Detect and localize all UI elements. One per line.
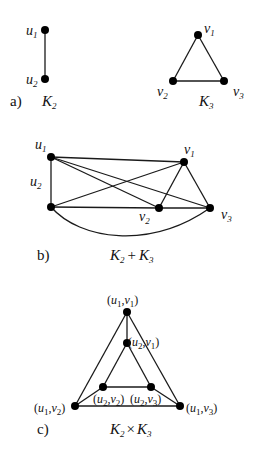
edge-u2-v2	[51, 207, 159, 208]
label-u2v1: (u2,v1)	[128, 335, 159, 351]
label-v3: v3	[221, 207, 232, 224]
panel-c: (u1,v1) (u2,v1) (u2,v2) (u2,v3) (u1,v2) …	[34, 293, 217, 439]
node-u2	[47, 203, 55, 211]
caption-k2: K2	[41, 93, 57, 111]
panel-a: u1 u2 v1 v2 v3 a) K2 K3	[10, 21, 244, 111]
label-v3: v3	[233, 84, 244, 101]
label-u2: u2	[26, 72, 38, 89]
node-u1	[41, 26, 49, 34]
edge-v1-v2	[173, 35, 198, 81]
label-u1v3: (u1,v3)	[186, 401, 217, 417]
node-u2	[41, 75, 49, 83]
k3-graph: v1 v2 v3	[157, 21, 244, 101]
caption-a-letter: a)	[10, 93, 22, 110]
label-u1: u1	[35, 137, 47, 154]
edge-u1-v2	[51, 157, 159, 208]
node-v2	[169, 77, 177, 85]
caption-k3: K3	[198, 93, 214, 111]
node-u1v2	[71, 402, 79, 410]
label-v2: v2	[139, 209, 150, 226]
panel-b: u1 u2 v1 v2 v3 b) K2+K3	[30, 137, 232, 265]
label-u2: u2	[30, 174, 42, 191]
edge-v1-v3	[198, 35, 224, 81]
node-u1	[47, 153, 55, 161]
node-v2	[155, 204, 163, 212]
label-u2v3: (u2,v3)	[130, 392, 161, 408]
k2-graph: u1 u2	[26, 23, 49, 89]
node-v3	[206, 204, 214, 212]
label-u2v2: (u2,v2)	[93, 392, 124, 408]
label-u1v2: (u1,v2)	[34, 401, 65, 417]
node-v1	[194, 31, 202, 39]
caption-k2-times-k3: K2×K3	[109, 421, 152, 439]
label-u1: u1	[26, 23, 38, 40]
node-u2v3	[147, 383, 155, 391]
edge-u2-v1	[51, 162, 184, 207]
node-u2v2	[99, 383, 107, 391]
edge-u1-v1	[51, 157, 184, 162]
node-u1v1	[123, 308, 131, 316]
caption-c-letter: c)	[37, 421, 49, 438]
node-v1	[180, 158, 188, 166]
label-v2: v2	[157, 84, 168, 101]
label-v1: v1	[184, 142, 195, 159]
edge-u2-v3	[51, 207, 210, 236]
label-u1v1: (u1,v1)	[107, 293, 138, 309]
caption-b-letter: b)	[37, 247, 50, 264]
caption-k2-plus-k3: K2+K3	[109, 247, 154, 265]
graph-figure: u1 u2 v1 v2 v3 a) K2 K3	[0, 0, 258, 451]
node-u1v3	[176, 402, 184, 410]
node-v3	[220, 77, 228, 85]
label-v1: v1	[204, 21, 215, 38]
